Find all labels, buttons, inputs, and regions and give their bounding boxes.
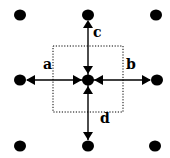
node-top-center <box>82 10 94 21</box>
arrowhead-left-outer <box>26 75 35 85</box>
node-middle-left <box>14 75 26 86</box>
grid-diagram: a b c d <box>0 0 170 158</box>
node-top-left <box>14 10 26 21</box>
label-d: d <box>100 110 110 126</box>
arrowhead-down-outer <box>83 132 93 140</box>
label-c: c <box>93 24 102 40</box>
node-center <box>82 75 94 86</box>
label-b: b <box>126 56 136 72</box>
node-bottom-left <box>14 141 26 152</box>
node-top-right <box>150 10 162 21</box>
arrowhead-right-inner <box>73 75 82 85</box>
arrowhead-right-outer <box>142 75 151 85</box>
node-bottom-center <box>82 141 94 152</box>
node-middle-right <box>151 75 163 86</box>
label-a: a <box>43 56 52 72</box>
arrowhead-up-outer <box>83 20 93 28</box>
node-bottom-right <box>149 141 161 152</box>
arrowhead-down-inner <box>83 66 93 74</box>
arrowhead-up-inner <box>83 86 93 94</box>
arrowhead-left-inner <box>94 75 103 85</box>
